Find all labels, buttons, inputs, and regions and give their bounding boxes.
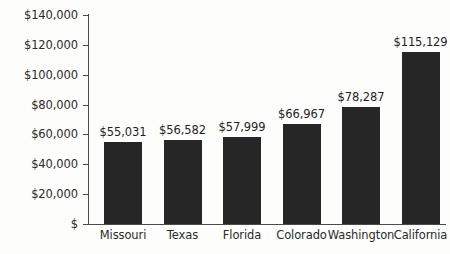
bar[interactable] [402, 52, 440, 224]
y-axis-tick-label: $80,000 [0, 98, 78, 112]
bar-group[interactable]: $55,031 [101, 15, 145, 224]
x-axis-category-label: Colorado [276, 228, 327, 242]
bar-group[interactable]: $115,129 [399, 15, 443, 224]
x-axis-category-label: Missouri [100, 228, 147, 242]
y-axis-tick-label: $140,000 [0, 8, 78, 22]
bar[interactable] [342, 107, 380, 224]
plot-area: $55,031$56,582$57,999$66,967$78,287$115,… [89, 15, 446, 224]
x-axis-category-label: Texas [167, 228, 198, 242]
bar-value-label: $56,582 [159, 123, 206, 137]
bar[interactable] [223, 137, 261, 224]
bar-group[interactable]: $56,582 [161, 15, 205, 224]
y-axis-tick-label: $120,000 [0, 38, 78, 52]
bar[interactable] [164, 140, 202, 224]
bar-value-label: $115,129 [393, 35, 447, 49]
bar-group[interactable]: $57,999 [220, 15, 264, 224]
bar-value-label: $78,287 [338, 90, 385, 104]
x-axis-category-label: Florida [223, 228, 261, 242]
y-axis-tick-label: $60,000 [0, 127, 78, 141]
bar-chart: $$20,000$40,000$60,000$80,000$100,000$12… [0, 0, 450, 254]
y-axis-tick [83, 224, 89, 225]
bar[interactable] [104, 142, 142, 224]
bar-value-label: $66,967 [278, 107, 325, 121]
bar[interactable] [283, 124, 321, 224]
bar-value-label: $55,031 [100, 125, 147, 139]
x-axis-category-label: Washington [328, 228, 395, 242]
y-axis-tick-label: $100,000 [0, 68, 78, 82]
y-axis-tick-label: $ [0, 217, 78, 231]
x-axis-line [88, 224, 446, 225]
x-axis-category-label: California [394, 228, 448, 242]
bar-value-label: $57,999 [219, 120, 266, 134]
bar-group[interactable]: $66,967 [280, 15, 324, 224]
y-axis-tick-label: $40,000 [0, 157, 78, 171]
bar-group[interactable]: $78,287 [339, 15, 383, 224]
y-axis-tick-label: $20,000 [0, 187, 78, 201]
